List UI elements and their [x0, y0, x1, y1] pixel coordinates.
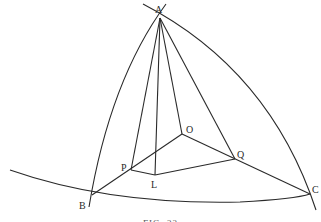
label-q: Q [237, 149, 245, 160]
line-oc [182, 134, 310, 194]
arc-bc [10, 170, 310, 202]
label-c: C [312, 184, 319, 195]
label-l: L [151, 179, 157, 190]
figure-caption: FIG. 22 [143, 218, 178, 222]
line-lq [155, 159, 235, 175]
label-a: A [155, 4, 163, 15]
label-o: O [186, 124, 193, 135]
arc-ab [89, 4, 166, 207]
line-pl [131, 170, 155, 175]
line-ao [160, 18, 182, 134]
line-bo [92, 134, 182, 195]
spherical-triangle-diagram: A B C O P Q L FIG. 22 [0, 0, 321, 222]
label-p: P [121, 162, 127, 173]
label-b: B [79, 200, 86, 211]
